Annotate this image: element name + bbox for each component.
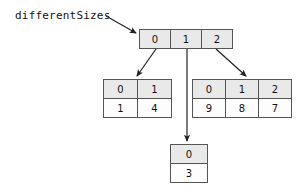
right-sub-array-value-2[interactable]: 7 bbox=[259, 99, 292, 118]
arrow-root0-to-left-array bbox=[137, 49, 156, 76]
arrow-root2-to-right-array bbox=[216, 49, 246, 76]
root-array-cell-0[interactable]: 0 bbox=[140, 30, 171, 49]
root-array-cell-1[interactable]: 1 bbox=[171, 30, 202, 49]
right-sub-array-index-row: 0 1 2 bbox=[193, 80, 292, 99]
bottom-sub-array-index-0[interactable]: 0 bbox=[171, 145, 208, 164]
right-sub-array-value-0[interactable]: 9 bbox=[193, 99, 226, 118]
bottom-sub-array-index-row: 0 bbox=[171, 145, 208, 164]
left-sub-array-index-1[interactable]: 1 bbox=[138, 80, 172, 99]
left-sub-array: 0 1 1 4 bbox=[103, 79, 172, 118]
variable-name-label: differentSizes bbox=[15, 9, 111, 22]
root-array: 0 1 2 bbox=[139, 29, 233, 49]
left-sub-array-value-1[interactable]: 4 bbox=[138, 99, 172, 118]
left-sub-array-index-row: 0 1 bbox=[104, 80, 172, 99]
left-sub-array-value-row: 1 4 bbox=[104, 99, 172, 118]
right-sub-array-index-2[interactable]: 2 bbox=[259, 80, 292, 99]
diagram-canvas: differentSizes 0 1 2 0 1 1 4 bbox=[0, 0, 307, 190]
bottom-sub-array: 0 3 bbox=[170, 144, 208, 183]
root-array-cell-2[interactable]: 2 bbox=[202, 30, 233, 49]
bottom-sub-array-value-row: 3 bbox=[171, 164, 208, 183]
left-sub-array-value-0[interactable]: 1 bbox=[104, 99, 138, 118]
right-sub-array-index-1[interactable]: 1 bbox=[226, 80, 259, 99]
right-sub-array: 0 1 2 9 8 7 bbox=[192, 79, 292, 118]
root-array-index-row: 0 1 2 bbox=[140, 30, 233, 49]
left-sub-array-index-0[interactable]: 0 bbox=[104, 80, 138, 99]
right-sub-array-index-0[interactable]: 0 bbox=[193, 80, 226, 99]
right-sub-array-value-row: 9 8 7 bbox=[193, 99, 292, 118]
bottom-sub-array-value-0[interactable]: 3 bbox=[171, 164, 208, 183]
right-sub-array-value-1[interactable]: 8 bbox=[226, 99, 259, 118]
